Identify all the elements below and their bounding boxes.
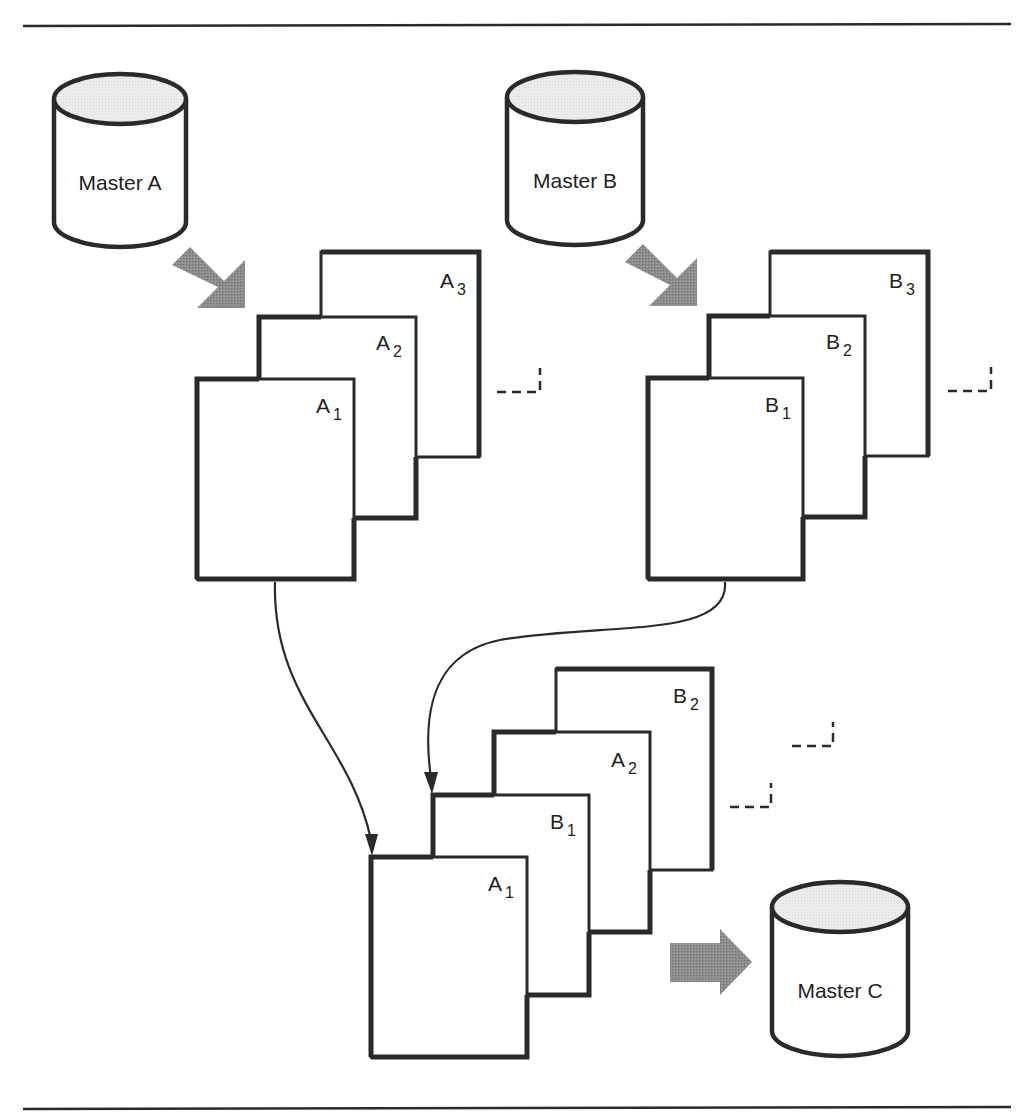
continuation-marker-c2 bbox=[730, 783, 771, 807]
page-c-a1-sub: 1 bbox=[505, 884, 514, 901]
page-c-b2-sub: 2 bbox=[690, 696, 699, 713]
master-a-label: Master A bbox=[79, 171, 162, 194]
page-b3-letter: B bbox=[889, 269, 903, 292]
page-c-a2-sub: 2 bbox=[628, 760, 637, 777]
top-rule bbox=[23, 24, 1011, 26]
page-c-b1-letter: B bbox=[550, 810, 564, 833]
page-b2-letter: B bbox=[826, 330, 840, 353]
page-b1: B1 bbox=[648, 378, 803, 579]
arrow-right-icon bbox=[670, 929, 752, 995]
page-c-a2-letter: A bbox=[611, 748, 625, 771]
page-stack-collated: B2 A2 B1 A1 bbox=[371, 669, 712, 1057]
arrowhead-icon bbox=[365, 834, 378, 856]
continuation-marker-a bbox=[497, 368, 540, 392]
master-c-label: Master C bbox=[797, 979, 882, 1002]
connector-a1-to-output bbox=[275, 582, 378, 856]
page-c-b2-letter: B bbox=[673, 684, 687, 707]
master-c-cylinder-icon: Master C bbox=[772, 882, 908, 1056]
master-b-cylinder-icon: Master B bbox=[507, 72, 643, 245]
continuation-marker-b bbox=[948, 367, 991, 391]
page-a1: A1 bbox=[197, 379, 354, 579]
continuation-marker-c1 bbox=[792, 722, 833, 746]
master-b-label: Master B bbox=[533, 169, 617, 192]
master-a-cylinder-icon: Master A bbox=[54, 74, 186, 247]
page-b3-sub: 3 bbox=[906, 281, 915, 298]
page-c-b1-sub: 1 bbox=[567, 822, 576, 839]
page-c-a1: A1 bbox=[371, 857, 527, 1057]
page-a1-letter: A bbox=[316, 394, 330, 417]
page-a2-sub: 2 bbox=[393, 343, 402, 360]
page-a3-letter: A bbox=[440, 269, 454, 292]
arrow-down-right-icon bbox=[172, 247, 245, 308]
arrowhead-icon bbox=[424, 772, 438, 794]
page-b1-letter: B bbox=[765, 393, 779, 416]
page-a2-letter: A bbox=[376, 331, 390, 354]
collation-diagram: Master A A3 A2 A1 Master bbox=[0, 0, 1035, 1115]
page-c-a1-letter: A bbox=[488, 872, 502, 895]
arrow-down-right-icon bbox=[625, 244, 697, 306]
page-a3-sub: 3 bbox=[457, 281, 466, 298]
page-a1-sub: 1 bbox=[333, 406, 342, 423]
page-b2-sub: 2 bbox=[843, 342, 852, 359]
page-b1-sub: 1 bbox=[782, 405, 791, 422]
bottom-rule bbox=[23, 1107, 1011, 1109]
